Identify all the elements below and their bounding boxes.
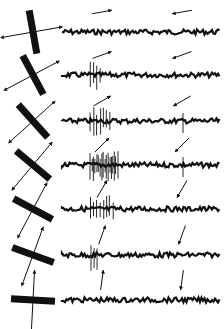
backward-direction-arrow-icon [177, 180, 187, 197]
forward-direction-arrow-icon [93, 52, 112, 59]
figure-row [11, 270, 220, 329]
forward-direction-arrow-icon [93, 96, 110, 106]
forward-direction-arrow-icon [101, 270, 104, 290]
spike-trace [62, 253, 220, 258]
backward-direction-arrow-icon [173, 96, 190, 106]
backward-direction-arrow-icon [181, 270, 184, 290]
backward-direction-arrow-icon [172, 10, 192, 13]
spike-trace [62, 163, 220, 168]
figure-row [14, 138, 220, 188]
spike-trace [62, 73, 220, 78]
figure-row [11, 96, 220, 141]
figure-row [3, 10, 219, 55]
backward-direction-arrow-icon [175, 138, 189, 152]
forward-direction-arrow-icon [99, 226, 106, 245]
figure-row [11, 226, 219, 284]
orientation-tuning-figure [0, 0, 224, 329]
spike-trace [62, 207, 220, 212]
movement-direction-arrow-icon [7, 61, 60, 89]
backward-direction-arrow-icon [173, 52, 192, 59]
forward-direction-arrow-icon [95, 138, 109, 152]
forward-direction-arrow-icon [97, 180, 107, 197]
forward-direction-arrow-icon [92, 10, 112, 13]
backward-direction-arrow-icon [179, 226, 186, 245]
figure-row [7, 52, 220, 96]
movement-direction-arrow-icon [14, 142, 53, 188]
spike-trace [62, 30, 220, 35]
spike-trace [62, 119, 220, 124]
spike-trace [62, 298, 220, 303]
